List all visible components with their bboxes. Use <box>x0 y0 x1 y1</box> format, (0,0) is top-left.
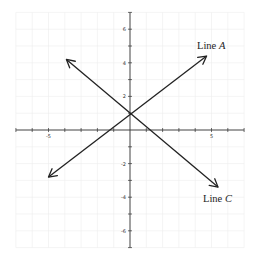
data-lines <box>49 56 219 187</box>
y-tick-label: 6 <box>123 26 126 32</box>
x-tick-label: 5 <box>210 133 213 139</box>
line-c-label: Line C <box>203 193 233 204</box>
y-tick-label: 2 <box>123 93 126 99</box>
y-tick-label: -6 <box>121 228 126 234</box>
y-tick-label: -2 <box>121 161 126 167</box>
y-tick-label: 4 <box>123 60 126 66</box>
x-tick-label: -5 <box>46 133 51 139</box>
line-a <box>49 56 207 177</box>
y-tick-label: -4 <box>121 194 126 200</box>
coordinate-plane-chart: -55642-2-4-6 Line A Line C <box>0 0 254 262</box>
line-a-label: Line A <box>197 40 226 51</box>
